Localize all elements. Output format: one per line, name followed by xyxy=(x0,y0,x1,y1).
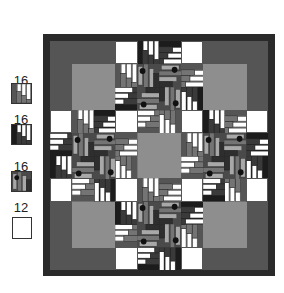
dot-block xyxy=(224,156,246,179)
dot-block xyxy=(137,64,159,87)
log-cabin-gray-block xyxy=(224,178,246,201)
log-cabin-black-block xyxy=(137,247,159,270)
log-cabin-black-block xyxy=(159,41,181,64)
log-cabin-black-block xyxy=(203,178,225,201)
white-square xyxy=(115,247,137,270)
white-square xyxy=(246,178,268,201)
white-square xyxy=(181,178,203,201)
corner-light-square xyxy=(72,64,116,110)
log-cabin-gray-block xyxy=(137,178,159,201)
log-cabin-black-block xyxy=(115,201,137,224)
log-cabin-black-block xyxy=(246,133,268,156)
log-cabin-black-block xyxy=(94,110,116,133)
log-cabin-black-block xyxy=(50,156,72,179)
white-square xyxy=(115,110,137,133)
log-cabin-gray-block xyxy=(224,110,246,133)
dot-block xyxy=(137,87,159,110)
log-cabin-black-block-icon xyxy=(12,125,31,144)
dot-block xyxy=(159,201,181,224)
log-cabin-black-block xyxy=(159,247,181,270)
corner-light-square xyxy=(72,201,116,247)
log-cabin-gray-block xyxy=(137,110,159,133)
white-square xyxy=(181,110,203,133)
log-cabin-gray-block xyxy=(159,110,181,133)
legend-count-white-square: 12 xyxy=(8,201,34,214)
log-cabin-gray-block xyxy=(72,178,94,201)
dot-block xyxy=(72,156,94,179)
dot-block xyxy=(159,64,181,87)
log-cabin-black-block xyxy=(94,178,116,201)
dot-block xyxy=(203,156,225,179)
log-cabin-gray-block xyxy=(115,64,137,87)
dot-block xyxy=(159,224,181,247)
dot-block xyxy=(94,133,116,156)
log-cabin-gray-block xyxy=(159,178,181,201)
log-cabin-gray-block-icon xyxy=(12,84,31,103)
quilt-diagram xyxy=(43,34,275,276)
log-cabin-gray-block xyxy=(181,64,203,87)
white-square xyxy=(181,247,203,270)
log-cabin-black-block xyxy=(181,87,203,110)
white-square xyxy=(246,110,268,133)
quilt-grid xyxy=(50,41,268,270)
white-square xyxy=(50,110,72,133)
log-cabin-gray-block xyxy=(181,156,203,179)
dot-block xyxy=(94,156,116,179)
log-cabin-gray-block xyxy=(115,224,137,247)
log-cabin-black-block xyxy=(203,110,225,133)
log-cabin-gray-block xyxy=(115,156,137,179)
dot-block xyxy=(159,87,181,110)
log-cabin-black-block xyxy=(181,201,203,224)
dot-block-icon xyxy=(12,172,31,191)
log-cabin-gray-block xyxy=(181,133,203,156)
white-square xyxy=(115,41,137,64)
white-square xyxy=(115,178,137,201)
dot-block xyxy=(137,224,159,247)
corner-light-square xyxy=(203,201,247,247)
log-cabin-black-block xyxy=(137,41,159,64)
log-cabin-gray-block xyxy=(181,224,203,247)
white-square xyxy=(181,41,203,64)
log-cabin-black-block xyxy=(115,87,137,110)
dot-block xyxy=(203,133,225,156)
corner-light-square xyxy=(203,64,247,110)
white-square-icon xyxy=(12,217,32,239)
log-cabin-gray-block xyxy=(72,110,94,133)
white-square xyxy=(50,178,72,201)
dot-block xyxy=(137,201,159,224)
log-cabin-black-block xyxy=(246,156,268,179)
log-cabin-gray-block xyxy=(115,133,137,156)
log-cabin-black-block xyxy=(50,133,72,156)
dot-block xyxy=(224,133,246,156)
center-square xyxy=(137,133,181,179)
dot-block xyxy=(72,133,94,156)
